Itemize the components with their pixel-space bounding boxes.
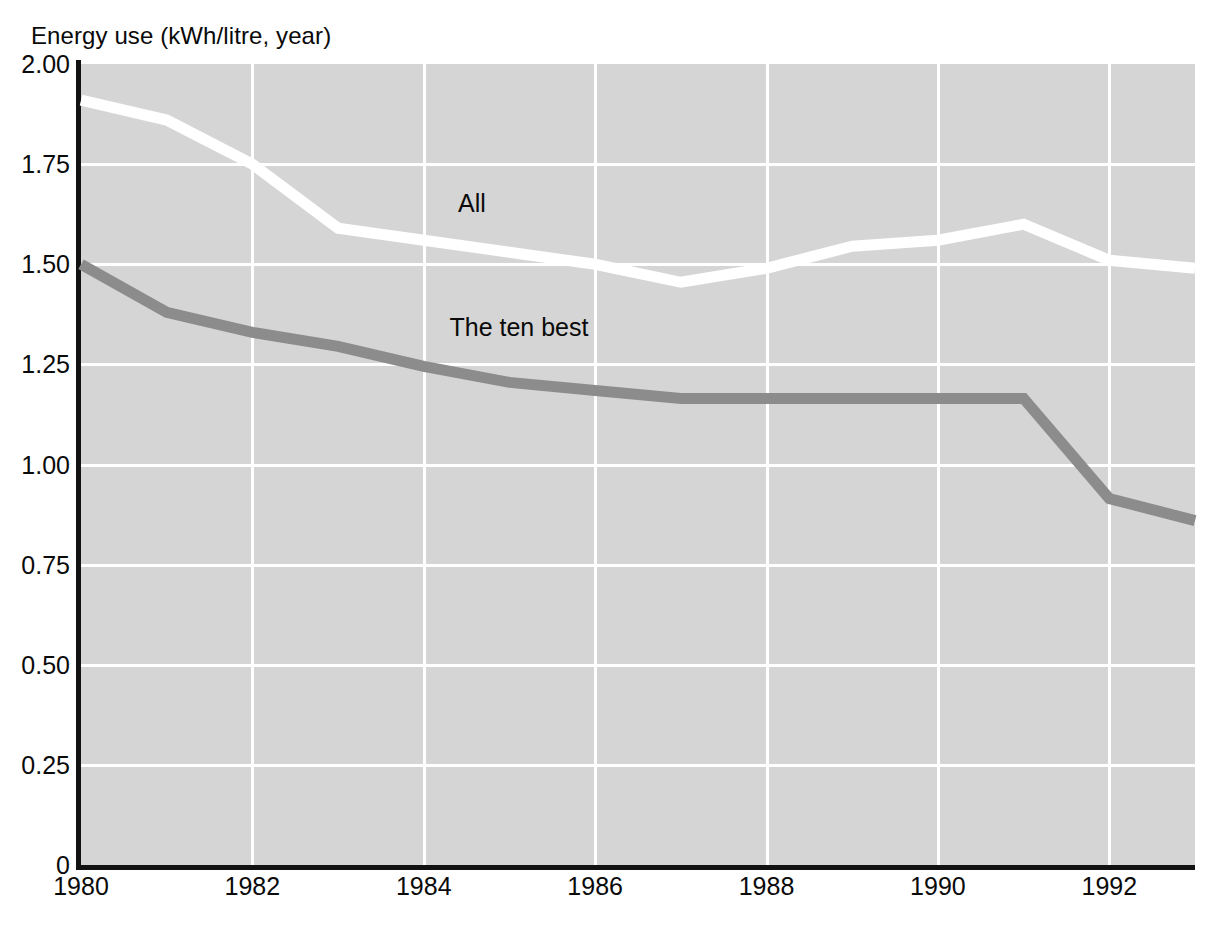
x-tick-label-1980: 1980 [53,872,109,901]
x-tick-label-1986: 1986 [567,872,623,901]
series-line-all [81,100,1195,282]
series-lines [81,64,1195,865]
x-tick-label-1988: 1988 [739,872,795,901]
y-tick-label-0.75: 0.75 [21,550,70,579]
x-tick-label-1984: 1984 [396,872,452,901]
series-line-the-ten-best [81,264,1195,520]
x-tick-label-1990: 1990 [910,872,966,901]
x-tick-label-1992: 1992 [1081,872,1137,901]
x-tick-label-1982: 1982 [225,872,281,901]
y-tick-label-0.25: 0.25 [21,750,70,779]
y-tick-label-1.25: 1.25 [21,350,70,379]
x-axis-line [76,865,1195,870]
plot-area: AllThe ten best [81,64,1195,865]
y-tick-label-1.75: 1.75 [21,150,70,179]
y-axis-title: Energy use (kWh/litre, year) [31,22,331,50]
y-tick-label-1.00: 1.00 [21,450,70,479]
y-tick-label-1.50: 1.50 [21,250,70,279]
series-label-all: All [458,189,486,218]
y-tick-label-0.50: 0.50 [21,650,70,679]
y-tick-label-2.00: 2.00 [21,50,70,79]
series-label-the-ten-best: The ten best [449,313,588,342]
chart-root: Energy use (kWh/litre, year) AllThe ten … [0,0,1216,928]
